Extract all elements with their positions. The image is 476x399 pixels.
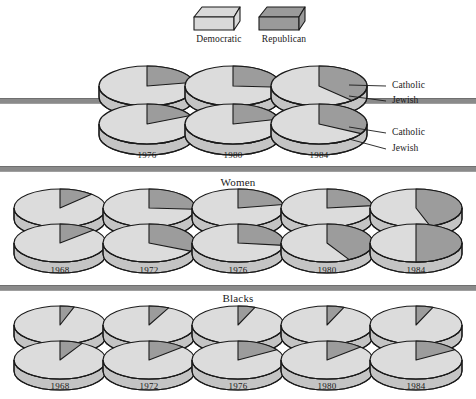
annotation-leader-line — [347, 83, 388, 88]
cube-3d-icon — [190, 4, 248, 34]
year-label-women-1968: 1968 — [30, 265, 90, 275]
divider-rule-religion-bottom — [0, 166, 476, 172]
year-label-women-1984: 1984 — [386, 265, 446, 275]
annotation-leader-line — [347, 94, 388, 103]
annotation-label-jewish-lower: Jewish — [392, 143, 418, 153]
annotation-leader-line — [347, 125, 388, 135]
year-label-women-1972: 1972 — [119, 265, 179, 275]
year-label-blacks-1976: 1976 — [208, 381, 268, 391]
divider-rule-women-bottom — [0, 285, 476, 291]
legend-label: Republican — [249, 34, 319, 44]
annotation-label-jewish-upper: Jewish — [392, 95, 418, 105]
legend-label: Democratic — [184, 34, 254, 44]
annotation-label-catholic-upper: Catholic — [392, 80, 425, 90]
chart-canvas: DemocraticRepublican Women Blacks 197619… — [0, 0, 476, 399]
year-label-religion-1980: 1980 — [203, 150, 263, 160]
cube-3d-icon — [255, 4, 313, 34]
year-label-blacks-1972: 1972 — [119, 381, 179, 391]
annotation-label-catholic-lower: Catholic — [392, 127, 425, 137]
year-label-women-1980: 1980 — [297, 265, 357, 275]
annotation-leader-line — [347, 137, 388, 151]
legend: DemocraticRepublican — [0, 4, 476, 52]
year-label-women-1976: 1976 — [208, 265, 268, 275]
year-label-blacks-1980: 1980 — [297, 381, 357, 391]
year-label-blacks-1968: 1968 — [30, 381, 90, 391]
year-label-religion-1976: 1976 — [117, 150, 177, 160]
year-label-religion-1984: 1984 — [289, 150, 349, 160]
year-label-blacks-1984: 1984 — [386, 381, 446, 391]
